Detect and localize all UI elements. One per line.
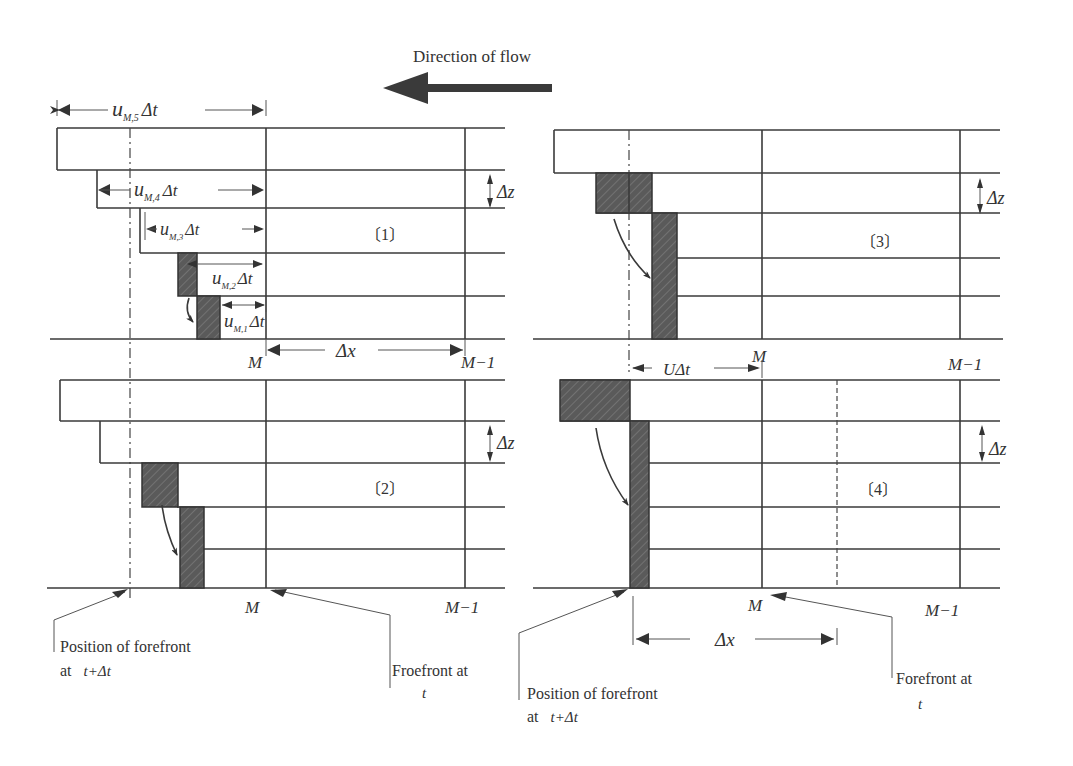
shaded-cell <box>142 463 178 507</box>
dx-label: Δx <box>714 629 735 650</box>
annotation-position-t-dt-line2: at t+Δt <box>60 662 112 679</box>
grid-label-m-1: M−1 <box>947 355 982 374</box>
transfer-arrow-icon <box>162 505 177 555</box>
dx-label: Δx <box>335 340 356 361</box>
grid-label-m-1: M−1 <box>444 598 479 617</box>
panel-label: 〔1〕 <box>365 226 405 243</box>
panel-2: Δz 〔2〕 M M−1 Position of forefront at t+… <box>47 380 515 701</box>
grid-label-m: M <box>751 347 767 366</box>
u-dt-label: UΔt <box>663 360 691 379</box>
annotation-position-t-dt: Position of forefront <box>527 685 658 702</box>
grid-label-m: M <box>747 596 763 615</box>
dim-u-m2: uM,2Δt <box>212 267 254 291</box>
shaded-cell <box>560 380 630 421</box>
shaded-cell <box>652 213 677 339</box>
dz-label: Δz <box>496 433 515 453</box>
annotation-position-t-dt-line2: at t+Δt <box>527 708 579 725</box>
panel-1: uM,5Δt uM,4Δt uM,3Δt uM,2Δt uM,1Δt Δz 〔1… <box>50 96 515 600</box>
annotation-forefront-t-line2: t <box>918 696 923 712</box>
grid-label-m-1: M−1 <box>924 601 959 620</box>
annotation-forefront-t-line2: t <box>422 685 427 701</box>
panel-label: 〔4〕 <box>858 481 898 498</box>
dim-u-m4: uM,4Δt <box>134 178 179 203</box>
flow-direction: Direction of flow <box>383 47 552 104</box>
flow-direction-label: Direction of flow <box>413 47 532 66</box>
flow-diagram: Direction of flow uM,5Δt <box>0 0 1073 766</box>
panel-3: Δz 〔3〕 M M−1 UΔt <box>533 130 1005 379</box>
transfer-arrow-icon <box>614 219 650 278</box>
panel-label: 〔3〕 <box>860 233 900 250</box>
dim-u-m5: uM,5Δt <box>112 96 158 123</box>
shaded-cell <box>596 173 652 213</box>
panel-4: Δz 〔4〕 M M−1 Δx Position of forefront at… <box>519 380 1007 725</box>
dz-label: Δz <box>496 182 515 202</box>
grid-label-m-1: M−1 <box>460 353 495 372</box>
dz-label: Δz <box>988 439 1007 459</box>
annotation-forefront-t: Froefront at <box>392 662 469 679</box>
flow-arrow-icon <box>383 72 552 104</box>
transfer-arrow-icon <box>596 428 628 505</box>
shaded-cell <box>178 253 197 296</box>
annotation-position-t-dt: Position of forefront <box>60 638 191 655</box>
dim-u-m1: uM,1Δt <box>224 310 266 334</box>
shaded-cell <box>630 421 649 588</box>
grid-label-m: M <box>247 353 263 372</box>
dz-label: Δz <box>986 188 1005 208</box>
shaded-cell <box>197 296 220 339</box>
shaded-cell <box>180 507 204 588</box>
annotation-forefront-t: Forefront at <box>896 670 973 687</box>
grid-label-m: M <box>244 598 260 617</box>
transfer-arrow-icon <box>187 298 193 322</box>
dim-u-m3: uM,3Δt <box>160 219 200 242</box>
panel-label: 〔2〕 <box>365 480 405 497</box>
